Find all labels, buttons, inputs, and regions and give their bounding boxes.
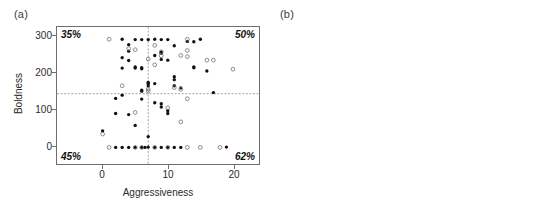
data-point-open [153, 63, 157, 67]
data-point-filled [160, 146, 163, 149]
data-point-filled [153, 82, 156, 85]
data-point-filled [120, 38, 123, 41]
data-point-filled [153, 101, 156, 104]
panel-a-xtick-0: 0 [99, 169, 105, 180]
data-point-open [185, 55, 189, 59]
data-point-filled [127, 43, 130, 46]
data-point-open [212, 58, 216, 62]
data-point-open [133, 111, 137, 115]
data-point-filled [166, 112, 169, 115]
data-point-open [107, 37, 111, 41]
panel-a-ytick-300: 300 [26, 30, 52, 41]
data-point-filled [134, 38, 137, 41]
data-point-filled [134, 66, 137, 69]
panel-a: (a) Boldness Aggressiveness 300 200 100 … [0, 0, 269, 208]
data-point-filled [140, 67, 143, 70]
data-point-open [179, 54, 183, 58]
data-point-filled [160, 105, 163, 108]
panel-a-ytick-100: 100 [26, 104, 52, 115]
panel-a-xtickmark-20 [234, 165, 235, 169]
data-point-filled [147, 135, 150, 138]
data-point-filled [120, 146, 123, 149]
panel-a-x-axis-label: Aggressiveness [56, 187, 260, 198]
panel-a-corner-bottom-right-pct: 62% [235, 151, 255, 162]
data-point-filled [114, 97, 117, 100]
data-point-filled [140, 97, 143, 100]
data-point-filled [140, 89, 143, 92]
panel-a-ytick-200: 200 [26, 67, 52, 78]
data-point-open [120, 84, 124, 88]
panel-a-plot-area [57, 27, 259, 164]
data-point-open [218, 146, 222, 150]
panel-a-xtick-10: 10 [162, 169, 173, 180]
data-point-filled [120, 56, 123, 59]
data-point-filled [192, 40, 195, 43]
data-point-filled [114, 146, 117, 149]
data-point-filled [166, 58, 169, 61]
panel-b-label: (b) [280, 8, 294, 20]
data-point-filled [173, 78, 176, 81]
data-point-open [231, 67, 235, 71]
data-point-open [205, 58, 209, 62]
data-point-filled [147, 38, 150, 41]
panel-a-xtickmark-10 [168, 165, 169, 169]
data-point-filled [127, 146, 130, 149]
data-point-filled [120, 93, 123, 96]
figure-container: (a) Boldness Aggressiveness 300 200 100 … [0, 0, 538, 208]
data-point-open [107, 146, 111, 150]
data-point-filled [205, 69, 208, 72]
data-point-open [198, 146, 202, 150]
data-point-filled [134, 124, 137, 127]
data-point-filled [173, 44, 176, 47]
data-point-filled [160, 58, 163, 61]
data-point-open [179, 120, 183, 124]
data-point-filled [153, 38, 156, 41]
data-point-open [185, 146, 189, 150]
panel-b: (b) Boldness Aggressiveness 300 200 100 … [269, 0, 538, 208]
panel-a-corner-top-right-pct: 50% [235, 29, 255, 40]
panel-a-corner-top-left-pct: 35% [61, 29, 81, 40]
data-point-filled [147, 145, 150, 148]
data-point-filled [114, 112, 117, 115]
panel-a-y-axis-label: Boldness [13, 64, 24, 124]
panel-a-scatter-svg [57, 27, 259, 164]
data-point-filled [225, 145, 228, 148]
data-point-filled [120, 66, 123, 69]
data-point-filled [127, 113, 130, 116]
panel-a-xtickmark-0 [102, 165, 103, 169]
panel-a-label: (a) [14, 8, 28, 20]
panel-a-ytick-0: 0 [26, 141, 52, 152]
data-point-open [101, 132, 105, 136]
data-point-filled [166, 38, 169, 41]
panel-a-xtick-20: 20 [228, 169, 239, 180]
panel-a-corner-bottom-left-pct: 45% [61, 151, 81, 162]
data-point-open [185, 49, 189, 53]
data-point-filled [173, 75, 176, 78]
data-point-filled [140, 38, 143, 41]
panel-a-plot-frame: 35% 50% 45% 62% [56, 26, 260, 165]
data-point-filled [212, 91, 215, 94]
data-point-open [185, 97, 189, 101]
data-point-filled [153, 54, 156, 57]
data-point-filled [160, 102, 163, 105]
data-point-filled [160, 38, 163, 41]
data-point-filled [192, 65, 195, 68]
data-point-filled [127, 59, 130, 62]
data-point-filled [173, 146, 176, 149]
data-point-filled [179, 146, 182, 149]
data-point-filled [199, 38, 202, 41]
data-point-open [153, 44, 157, 48]
data-point-open [133, 48, 137, 52]
